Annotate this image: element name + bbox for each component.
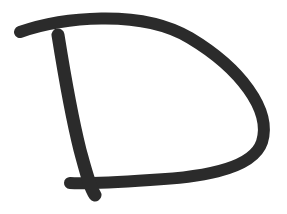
letter-d-drawing: D bbox=[0, 0, 287, 214]
letter-d-icon bbox=[0, 0, 287, 214]
